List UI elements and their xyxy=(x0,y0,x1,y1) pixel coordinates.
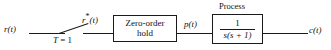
sampling-period-var: T xyxy=(53,35,58,45)
sampling-period-value: = 1 xyxy=(60,35,72,45)
process-block: 1 s(s + 1) xyxy=(212,14,263,44)
input-signal-label: r(t) xyxy=(4,24,16,34)
transfer-function: 1 s(s + 1) xyxy=(220,18,254,41)
wire-sampler-to-hold xyxy=(83,33,113,34)
transfer-function-numerator: 1 xyxy=(220,18,254,28)
block-diagram: r(t) T = 1 r*(t) Zero-order hold p(t) Pr… xyxy=(0,0,331,50)
wire-process-to-output xyxy=(263,33,308,34)
sampling-period-label: T = 1 xyxy=(53,35,72,45)
sampled-signal-arg: (t) xyxy=(90,15,99,25)
zero-order-hold-block: Zero-order hold xyxy=(113,15,177,42)
sampled-signal-label: r*(t) xyxy=(82,15,98,25)
output-signal-label: c(t) xyxy=(309,25,322,35)
transfer-function-denominator: s(s + 1) xyxy=(220,30,254,40)
zero-order-hold-label-line2: hold xyxy=(137,29,153,38)
process-caption-label: Process xyxy=(219,1,245,11)
wire-hold-to-process xyxy=(177,33,212,34)
hold-output-signal-label: p(t) xyxy=(184,19,197,29)
